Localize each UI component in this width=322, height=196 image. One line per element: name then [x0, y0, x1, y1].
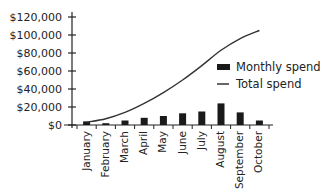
bar [198, 112, 205, 126]
legend: Monthly spend Total spend [217, 60, 321, 91]
bar [237, 112, 244, 125]
x-tick-label: May [156, 131, 168, 153]
spend-chart: $0$20,000$40,000$60,000$80,000$100,000$1… [0, 0, 322, 196]
y-tick-label: $100,000 [10, 29, 63, 42]
legend-bar-swatch-icon [217, 64, 230, 70]
legend-monthly-label: Monthly spend [236, 60, 321, 74]
x-tick-label: August [214, 131, 226, 168]
bar [160, 116, 167, 125]
x-tick-label: March [118, 131, 130, 163]
x-tick-label: September [233, 130, 245, 189]
x-tick-label: June [176, 131, 188, 155]
total-line-path [87, 31, 260, 123]
chart-canvas: $0$20,000$40,000$60,000$80,000$100,000$1… [0, 0, 322, 196]
bar [102, 123, 109, 125]
bar [256, 121, 263, 126]
bar [122, 121, 129, 126]
bar [218, 103, 225, 125]
y-tick-label: $20,000 [17, 101, 63, 114]
x-tick-label: April [137, 131, 149, 155]
total-spend-line [87, 31, 260, 123]
y-tick-label: $80,000 [17, 47, 63, 60]
bar [141, 118, 148, 125]
y-axis: $0$20,000$40,000$60,000$80,000$100,000$1… [10, 11, 77, 132]
x-tick-label: January [80, 131, 92, 172]
bar [179, 113, 186, 125]
x-tick-label: February [99, 131, 111, 178]
y-tick-label: $120,000 [10, 11, 63, 24]
x-axis: JanuaryFebruaryMarchAprilMayJuneJulyAugu… [64, 125, 273, 189]
y-tick-label: $60,000 [17, 65, 63, 78]
y-tick-label: $0 [48, 119, 62, 132]
legend-total-label: Total spend [235, 77, 301, 91]
x-tick-label: October [252, 130, 264, 173]
x-tick-label: July [195, 131, 207, 151]
monthly-spend-bars [83, 103, 263, 125]
y-tick-label: $40,000 [17, 83, 63, 96]
